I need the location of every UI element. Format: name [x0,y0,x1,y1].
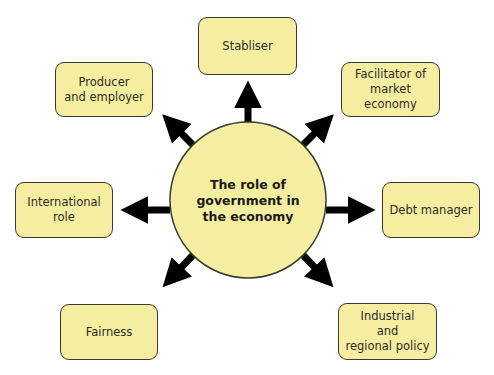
arrow-up-right-icon [303,128,320,145]
arrow-up-left-icon [176,128,193,145]
node-facilitator-of-market-economy: Facilitator of market economy [341,62,440,117]
node-producer-and-employer: Producer and employer [55,62,153,117]
center-label: The role of government in the economy [170,162,326,240]
node-international-role: International role [15,182,113,238]
node-fairness: Fairness [60,304,158,360]
arrow-down-left-icon [176,255,193,273]
arrow-down-right-icon [303,255,320,273]
node-debt-manager: Debt manager [382,182,480,238]
node-stabliser: Stabliser [198,17,297,75]
node-industrial-and-regional-policy: Industrial and regional policy [338,303,437,360]
